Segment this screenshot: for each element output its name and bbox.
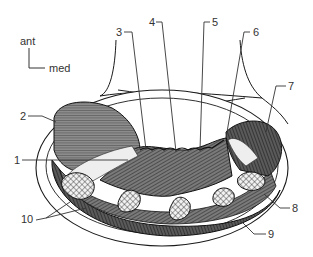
anatomical-diagram: ant med 1 2 3 4 5 6 7 8 9 10 bbox=[0, 0, 313, 257]
label-7: 7 bbox=[288, 81, 294, 92]
bone-4 bbox=[213, 188, 234, 206]
diagram-illustration bbox=[0, 0, 313, 257]
anterior-label: ant bbox=[20, 36, 35, 47]
label-3: 3 bbox=[116, 27, 122, 38]
label-6: 6 bbox=[253, 27, 259, 38]
label-1: 1 bbox=[14, 155, 20, 166]
label-9: 9 bbox=[268, 229, 274, 240]
label-2: 2 bbox=[20, 111, 26, 122]
bone-5 bbox=[237, 172, 264, 190]
label-8: 8 bbox=[292, 203, 298, 214]
label-10: 10 bbox=[21, 214, 33, 225]
orientation-marker bbox=[29, 48, 45, 68]
label-5: 5 bbox=[212, 17, 218, 28]
label-4: 4 bbox=[149, 17, 155, 28]
medial-label: med bbox=[49, 63, 70, 74]
